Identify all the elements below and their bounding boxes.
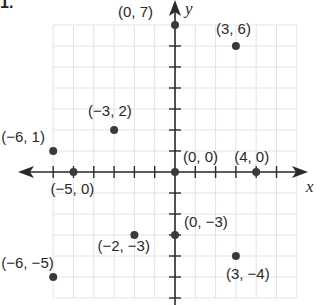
- point-label: (3, 6): [216, 20, 251, 37]
- point-label: (−3, 2): [88, 102, 132, 119]
- point-label: (0, 7): [118, 3, 153, 20]
- point-label: (−2, −3): [97, 237, 150, 254]
- data-point: [49, 273, 57, 281]
- point-label: (−5, 0): [51, 180, 95, 197]
- data-point: [232, 42, 240, 50]
- data-point: [171, 168, 179, 176]
- point-label: (−6, −5): [1, 254, 54, 271]
- coordinate-plane: x y (0, 7)(3, 6)(−3, 2)(−6, 1)(0, 0)(4, …: [0, 0, 322, 305]
- point-label: (0, −3): [184, 213, 228, 230]
- x-axis-label: x: [305, 177, 314, 196]
- point-label: (4, 0): [234, 148, 269, 165]
- data-point: [110, 126, 118, 134]
- data-point: [232, 252, 240, 260]
- point-label: (3, −4): [226, 265, 270, 282]
- data-point: [171, 21, 179, 29]
- data-point: [171, 231, 179, 239]
- y-axis-label: y: [183, 0, 193, 18]
- data-point: [70, 168, 78, 176]
- point-label: (0, 0): [183, 148, 218, 165]
- data-points: (0, 7)(3, 6)(−3, 2)(−6, 1)(0, 0)(4, 0)(−…: [1, 3, 269, 282]
- data-point: [49, 147, 57, 155]
- point-label: (−6, 1): [1, 128, 45, 145]
- data-point: [252, 168, 260, 176]
